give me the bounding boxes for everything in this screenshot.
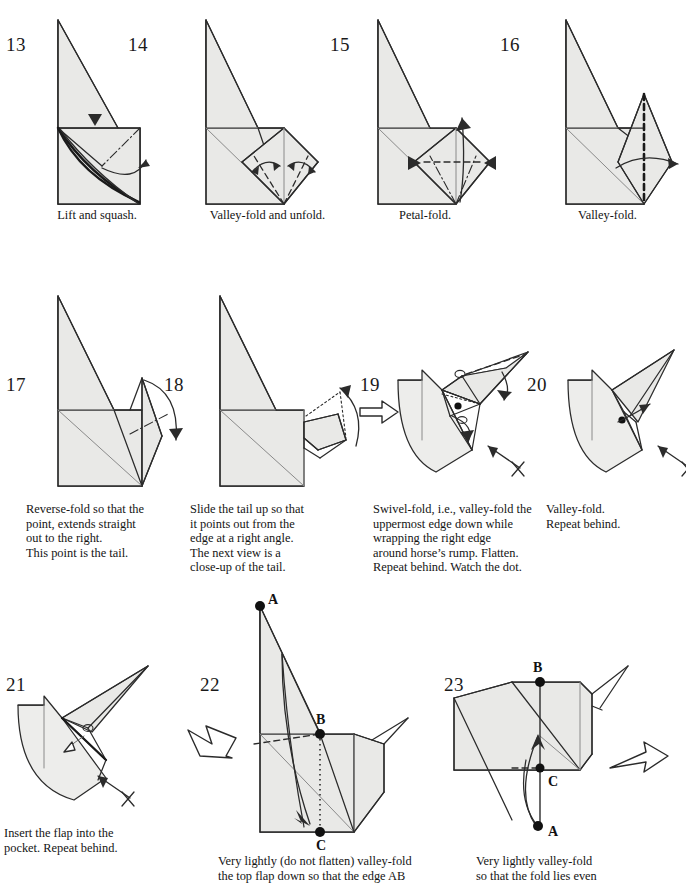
step-diagram-20 xyxy=(546,350,686,495)
point-C-dot xyxy=(315,827,325,837)
repeat-behind-arrow-with-x-icon xyxy=(488,446,524,476)
step-diagram-14 xyxy=(196,16,336,206)
step-caption-18: Slide the tail up so that it points out … xyxy=(190,502,350,575)
step-diagram-15 xyxy=(368,16,508,206)
step-diagram-19 xyxy=(376,350,561,495)
step-number-20: 20 xyxy=(527,374,547,396)
step-caption-21: Insert the flap into the pocket. Repeat … xyxy=(4,826,184,855)
repeat-behind-arrow-with-x-icon xyxy=(658,446,686,476)
repeat-behind-arrow-with-x-icon xyxy=(98,776,134,806)
point-B-dot xyxy=(535,677,545,687)
point-B-dot xyxy=(315,729,325,739)
step-number-16: 16 xyxy=(500,34,520,56)
step-number-13: 13 xyxy=(6,34,26,56)
point-A-dot xyxy=(255,601,265,611)
step-diagram-23: B C A xyxy=(440,660,670,850)
step-caption-13: Lift and squash. xyxy=(22,208,172,223)
step-diagram-21 xyxy=(2,660,172,810)
step-diagram-22: A B C xyxy=(232,592,422,842)
transition-arrow-23-next xyxy=(610,742,668,772)
step-caption-14: Valley-fold and unfold. xyxy=(180,208,355,223)
point-C-label: C xyxy=(548,774,558,789)
point-A-label: A xyxy=(268,592,279,607)
step-caption-15: Petal-fold. xyxy=(355,208,495,223)
step-number-22: 22 xyxy=(200,674,220,696)
step-caption-20: Valley-fold. Repeat behind. xyxy=(546,502,676,531)
step-number-18: 18 xyxy=(164,374,184,396)
step-caption-16: Valley-fold. xyxy=(540,208,675,223)
point-B-label: B xyxy=(316,712,325,727)
point-A-label: A xyxy=(548,824,559,839)
step-number-15: 15 xyxy=(330,34,350,56)
step-caption-22: Very lightly (do not flatten) valley-fol… xyxy=(218,854,468,883)
point-B-label: B xyxy=(533,660,542,675)
step-caption-17: Reverse-fold so that the point, extends … xyxy=(26,502,186,560)
tracking-dot xyxy=(454,402,461,409)
step-caption-23: Very lightly valley-fold so that the fol… xyxy=(476,854,676,883)
step-diagram-18 xyxy=(188,288,368,488)
point-C-dot xyxy=(536,764,545,773)
step-number-14: 14 xyxy=(128,34,148,56)
point-C-label: C xyxy=(316,838,326,853)
step-caption-19: Swivel-fold, i.e., valley-fold the upper… xyxy=(373,502,563,575)
step-number-17: 17 xyxy=(6,374,26,396)
step-diagram-16 xyxy=(556,16,686,206)
point-A-dot xyxy=(533,821,543,831)
